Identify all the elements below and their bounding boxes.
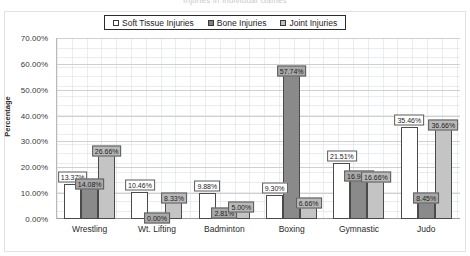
chart-title: Injuries in Individual Games	[0, 0, 470, 7]
y-axis-tick-label: 0.00%	[25, 215, 48, 224]
x-axis-tick-label: Boxing	[258, 224, 325, 234]
gridline	[57, 38, 460, 39]
chart-legend: Soft Tissue Injuries Bone Injuries Joint…	[104, 15, 346, 30]
y-axis-tick-label: 30.00%	[21, 137, 48, 146]
legend-item-soft-tissue-injuries: Soft Tissue Injuries	[113, 18, 194, 28]
x-axis-tick-label: Wt. Lifting	[123, 224, 190, 234]
y-axis-tick-label: 50.00%	[21, 85, 48, 94]
x-axis-tick-label: Gymnastic	[325, 224, 392, 234]
legend-item-joint-injuries: Joint Injuries	[280, 18, 337, 28]
x-axis-tick-label: Judo	[393, 224, 460, 234]
y-axis-title: Percentage	[3, 96, 12, 136]
gridline	[57, 141, 460, 142]
x-axis-tick-label: Badminton	[191, 224, 258, 234]
legend-label: Joint Injuries	[289, 18, 337, 28]
x-axis-line	[57, 218, 460, 219]
y-axis-tick-label: 20.00%	[21, 163, 48, 172]
legend-swatch-icon	[113, 20, 119, 26]
y-axis-tick-label: 10.00%	[21, 189, 48, 198]
x-axis: WrestlingWt. LiftingBadmintonBoxingGymna…	[56, 224, 460, 234]
x-axis-tick-label: Wrestling	[56, 224, 123, 234]
gridline	[57, 193, 460, 194]
gridline	[57, 64, 460, 65]
legend-swatch-icon	[208, 20, 214, 26]
plot-area	[56, 38, 460, 219]
legend-label: Bone Injuries	[217, 18, 267, 28]
chart-container: Injuries in Individual Games Soft Tissue…	[0, 0, 470, 256]
gridline	[57, 167, 460, 168]
legend-swatch-icon	[280, 20, 286, 26]
legend-label: Soft Tissue Injuries	[122, 18, 194, 28]
gridline	[57, 90, 460, 91]
y-axis-tick-label: 40.00%	[21, 111, 48, 120]
legend-item-bone-injuries: Bone Injuries	[208, 18, 267, 28]
y-axis-tick-label: 60.00%	[21, 59, 48, 68]
gridline	[57, 116, 460, 117]
y-axis-tick-label: 70.00%	[21, 34, 48, 43]
